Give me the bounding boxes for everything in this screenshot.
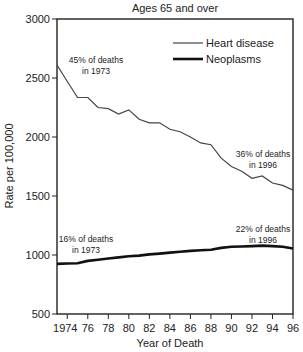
y-axis-label: Rate per 100,000	[3, 123, 15, 208]
x-tick-label: 80	[123, 322, 135, 334]
annotation-heart-1973: 45% of deaths in 1973	[69, 55, 123, 76]
x-tick-label: 84	[164, 322, 176, 334]
x-tick-label: 92	[246, 322, 258, 334]
annotation-text: in 1973	[82, 66, 110, 76]
x-tick-label: 96	[287, 322, 299, 334]
x-axis: 19747678808284868890929496	[53, 314, 299, 334]
x-tick-label: 94	[266, 322, 278, 334]
x-tick-label: 76	[82, 322, 94, 334]
y-tick-label: 3000	[26, 13, 50, 25]
legend: Heart disease Neoplasms	[173, 37, 274, 65]
x-tick-label: 88	[205, 322, 217, 334]
y-tick-label: 500	[32, 308, 50, 320]
x-axis-label: Year of Death	[137, 337, 204, 349]
annotation-neoplasms-1973: 16% of deaths in 1973	[59, 234, 113, 255]
x-tick-label: 1974	[53, 322, 77, 334]
annotation-text: 22% of deaths	[236, 224, 290, 234]
annotation-heart-1996: 36% of deaths in 1996	[236, 149, 290, 170]
annotation-text: 36% of deaths	[236, 149, 290, 159]
legend-neoplasms-label: Neoplasms	[206, 53, 262, 65]
y-tick-label: 1000	[26, 249, 50, 261]
x-tick-label: 82	[143, 322, 155, 334]
annotation-text: in 1996	[249, 160, 277, 170]
annotation-text: 16% of deaths	[59, 234, 113, 244]
x-tick-label: 86	[184, 322, 196, 334]
x-tick-label: 90	[225, 322, 237, 334]
y-tick-label: 1500	[26, 190, 50, 202]
y-tick-label: 2500	[26, 72, 50, 84]
annotation-text: 45% of deaths	[69, 55, 123, 65]
chart-title: Ages 65 and over	[132, 2, 219, 14]
y-tick-label: 2000	[26, 131, 50, 143]
annotation-text: in 1996	[249, 235, 277, 245]
x-tick-label: 78	[102, 322, 114, 334]
annotation-text: in 1973	[72, 245, 100, 255]
y-axis: 50010001500200025003000	[26, 13, 57, 320]
line-chart: Ages 65 and over 50010001500200025003000…	[0, 0, 303, 352]
annotation-neoplasms-1996: 22% of deaths in 1996	[236, 224, 290, 245]
legend-heart-disease-label: Heart disease	[206, 37, 274, 49]
heart-disease-line	[57, 65, 293, 190]
